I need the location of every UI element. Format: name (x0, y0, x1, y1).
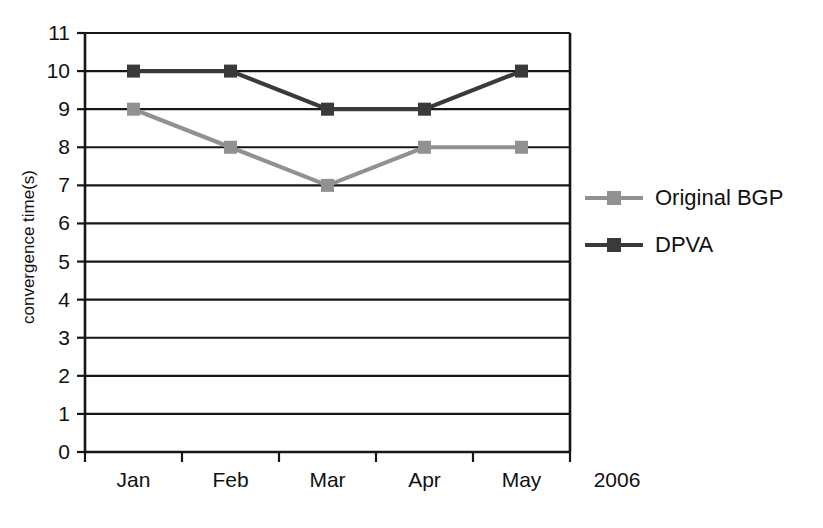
y-tick-label: 2 (58, 364, 70, 387)
x-tick-label: Mar (309, 468, 345, 491)
chart-container: 01234567891011 JanFebMarAprMay 2006 conv… (0, 0, 823, 528)
chart-background (0, 0, 823, 528)
legend-marker-swatch (607, 238, 621, 252)
y-tick-label: 5 (58, 250, 70, 273)
x-tick-label: May (502, 468, 542, 491)
x-tick-label: Jan (117, 468, 151, 491)
data-point-marker (515, 141, 528, 154)
y-tick-label: 3 (58, 326, 70, 349)
data-point-marker (321, 103, 334, 116)
y-tick-label: 6 (58, 211, 70, 234)
x-axis-year-label: 2006 (594, 468, 641, 491)
data-point-marker (224, 141, 237, 154)
y-tick-label: 9 (58, 97, 70, 120)
data-point-marker (515, 65, 528, 78)
y-tick-label: 1 (58, 402, 70, 425)
y-tick-label: 0 (58, 440, 70, 463)
x-tick-label: Apr (408, 468, 441, 491)
data-point-marker (224, 65, 237, 78)
y-axis-title: convergence time(s) (19, 170, 38, 324)
y-tick-label: 10 (47, 59, 70, 82)
legend-marker-swatch (607, 191, 621, 205)
data-point-marker (418, 103, 431, 116)
y-tick-label: 8 (58, 135, 70, 158)
data-point-marker (127, 103, 140, 116)
legend-label: Original BGP (655, 185, 783, 210)
legend-label: DPVA (655, 232, 714, 257)
y-tick-label: 4 (58, 288, 70, 311)
data-point-marker (127, 65, 140, 78)
line-chart: 01234567891011 JanFebMarAprMay 2006 conv… (0, 0, 823, 528)
y-tick-label: 7 (58, 173, 70, 196)
data-point-marker (418, 141, 431, 154)
x-tick-label: Feb (212, 468, 248, 491)
y-tick-label: 11 (48, 21, 70, 44)
data-point-marker (321, 179, 334, 192)
